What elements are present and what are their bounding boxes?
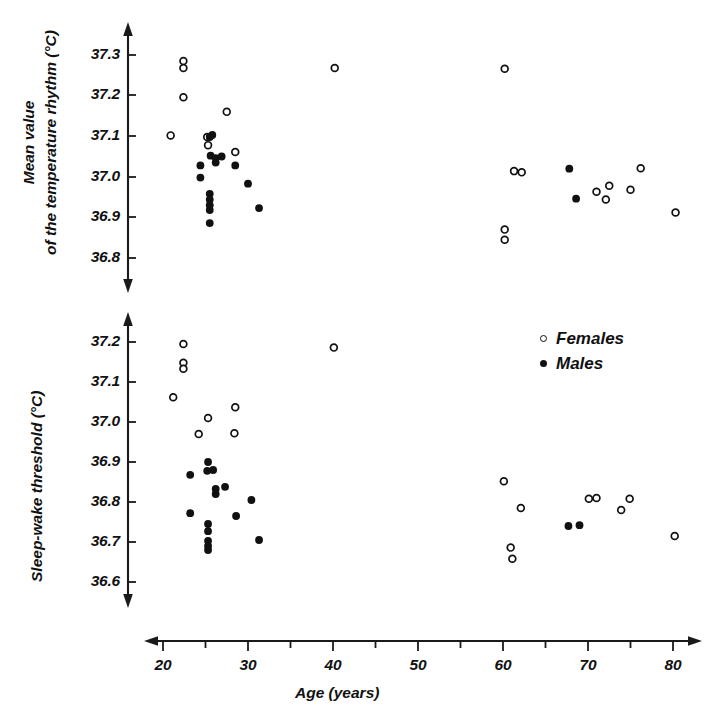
data-point-females [195,431,202,438]
data-point-females [180,365,187,372]
data-point-males [209,466,217,474]
data-point-males [244,180,252,188]
data-point-females [627,186,634,193]
data-point-females [205,415,212,422]
data-point-males [255,536,263,544]
data-point-males [576,521,584,529]
data-point-males [255,204,263,212]
xtick-label-30: 30 [223,656,273,674]
top-panel-y-axis-title-line2: of the temperature rhythm (°C) [40,10,62,275]
bottom-ytick-label-0: 37.2 [38,332,120,350]
x-axis-title: Age (years) [295,684,379,702]
bottom-ytick-label-4: 36.8 [38,492,120,510]
data-point-females [167,132,174,139]
data-point-females [330,344,337,351]
data-point-males [204,546,212,554]
data-point-males [565,522,573,530]
data-point-females [180,58,187,65]
data-point-males [218,153,226,161]
data-point-females [205,142,212,149]
data-point-males [208,131,216,139]
xtick-label-60: 60 [478,656,528,674]
data-point-males [186,471,194,479]
data-point-males [572,195,580,203]
data-point-females [331,65,338,72]
data-point-females [180,341,187,348]
data-point-females [585,495,592,502]
bottom-ytick-label-6: 36.6 [38,572,120,590]
data-point-males [232,512,240,520]
data-point-females [170,394,177,401]
data-point-males [231,162,239,170]
figure-root: 37.3 37.2 37.1 37.0 36.9 36.8 37.2 37.1 … [0,0,709,710]
bottom-ytick-label-2: 37.0 [38,412,120,430]
xtick-label-80: 80 [648,656,698,674]
data-point-females [593,495,600,502]
data-point-males [197,162,205,170]
data-point-females [606,182,613,189]
data-point-females [618,507,625,514]
data-point-females [626,495,633,502]
xtick-label-50: 50 [393,656,443,674]
data-point-males [248,496,256,504]
data-point-females [180,65,187,72]
data-point-females [501,236,508,243]
data-point-females [180,94,187,101]
data-point-females [593,188,600,195]
xtick-label-40: 40 [308,656,358,674]
bottom-ytick-label-1: 37.1 [38,372,120,390]
data-point-males [186,509,194,517]
data-point-females [637,165,644,172]
bottom-ytick-label-5: 36.7 [38,532,120,550]
top-panel-y-axis-title-line1: Mean value [18,10,40,275]
data-point-females [232,404,239,411]
data-point-females [518,169,525,176]
data-point-females [671,533,678,540]
data-point-males [204,458,212,466]
data-point-females [602,196,609,203]
data-point-females [501,226,508,233]
legend: Females Males [530,326,624,376]
data-point-females [500,478,507,485]
legend-item-males[interactable]: Males [530,351,624,376]
top-panel-data-points [167,58,679,243]
x-axis [144,636,702,651]
data-point-females [501,65,508,72]
data-point-females [509,555,516,562]
top-panel-y-axis [123,22,136,293]
legend-label-males: Males [556,354,603,374]
data-point-females [507,544,514,551]
data-point-females [517,505,524,512]
top-panel-y-axis-title: Mean value of the temperature rhythm (°C… [18,10,62,275]
bottom-panel-y-axis-title: Sleep-wake threshold (°C) [28,391,46,582]
filled-circle-icon [530,360,556,367]
data-point-females [231,430,238,437]
data-point-females [223,108,230,115]
data-point-males [212,490,220,498]
bottom-ytick-label-3: 36.9 [38,452,120,470]
data-point-males [204,520,212,528]
legend-item-females[interactable]: Females [530,326,624,351]
data-point-males [206,219,214,227]
bottom-panel-y-axis [123,312,136,608]
data-point-females [232,149,239,156]
data-point-males [565,165,573,173]
data-point-males [206,206,214,214]
legend-label-females: Females [556,329,624,349]
xtick-label-20: 20 [138,656,188,674]
xtick-label-70: 70 [563,656,613,674]
open-circle-icon [530,335,556,342]
data-point-males [197,174,205,182]
data-point-males [204,527,212,535]
data-point-females [672,209,679,216]
data-point-females [511,168,518,175]
data-point-males [212,159,220,167]
data-point-males [221,483,229,491]
